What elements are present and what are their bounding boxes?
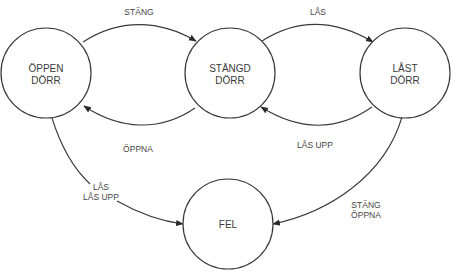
- node-closed-door: STÄNGD DÖRR: [185, 28, 275, 118]
- edge-open-to-error-tail: [117, 201, 183, 224]
- node-error-label: FEL: [219, 219, 238, 230]
- edge-label-las: LÅS: [310, 7, 326, 17]
- node-open-door-label-1: ÖPPEN: [28, 63, 63, 74]
- node-locked-door-label-2: DÖRR: [390, 75, 419, 86]
- edge-open-to-closed: [83, 25, 196, 42]
- edge-open-to-error: [52, 118, 90, 184]
- node-locked-door-label-1: LÅST: [392, 62, 417, 74]
- edge-label-locked-error-2: ÖPPNA: [351, 210, 381, 220]
- edge-label-stang: STÄNG: [124, 7, 153, 17]
- node-closed-door-label-1: STÄNGD: [209, 63, 251, 74]
- edge-label-oppna: ÖPPNA: [123, 144, 153, 154]
- state-diagram: STÄNG ÖPPNA LÅS LÅS UPP LÅS LÅS UPP STÄN…: [0, 0, 455, 272]
- edge-closed-to-open: [84, 106, 195, 125]
- node-open-door-label-2: DÖRR: [31, 75, 60, 86]
- edge-label-locked-error-1: STÄNG: [351, 200, 380, 210]
- node-open-door: ÖPPEN DÖRR: [1, 28, 91, 118]
- edge-locked-to-error: [273, 117, 402, 224]
- node-error: FEL: [183, 179, 273, 269]
- node-closed-door-label-2: DÖRR: [215, 75, 244, 86]
- edge-label-open-error-1: LÅS: [93, 182, 109, 192]
- edge-label-open-error-2: LÅS UPP: [83, 192, 119, 202]
- edge-label-las-upp: LÅS UPP: [297, 140, 333, 150]
- edge-locked-to-closed: [261, 107, 372, 125]
- edge-closed-to-locked: [262, 25, 373, 42]
- node-locked-door: LÅST DÖRR: [360, 28, 450, 118]
